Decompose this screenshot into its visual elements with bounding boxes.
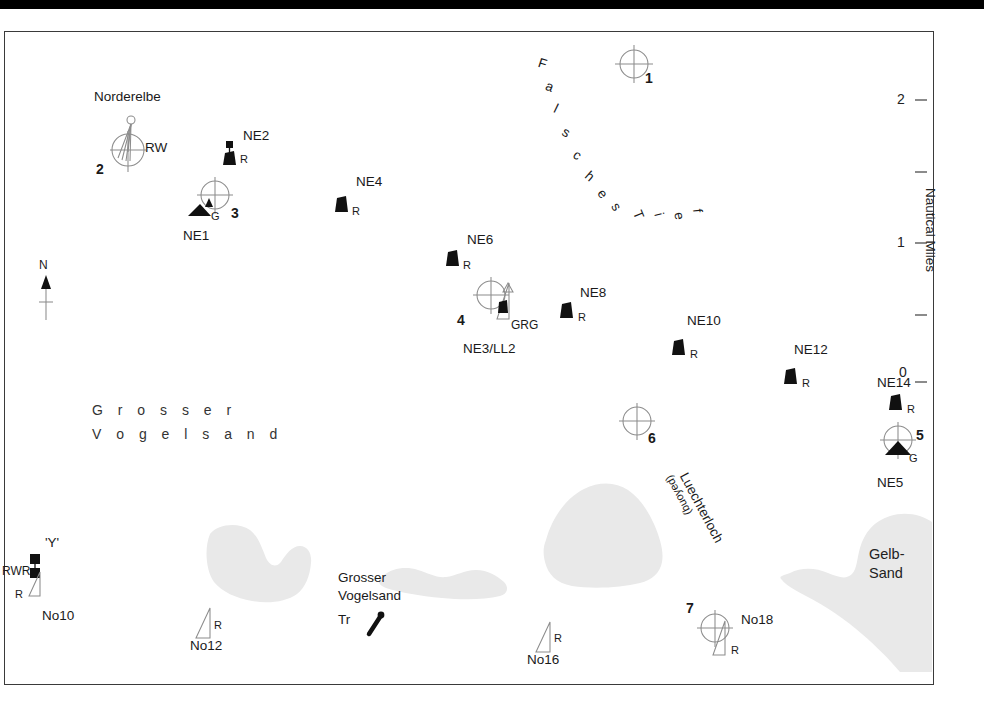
scale-tick-label-0: 0: [899, 364, 907, 381]
light-char-ne1: G: [211, 210, 220, 223]
label-no16: No16: [527, 652, 559, 668]
light-char-ne10: R: [690, 348, 698, 361]
region-name-grosser-vogelsand-line2: V o g e l s a n d: [92, 426, 283, 443]
waypoint-number-3: 3: [231, 205, 239, 222]
light-char-ne3-ll2: GRG: [511, 318, 538, 332]
waypoint-number-6: 6: [648, 430, 656, 447]
region-name-gelb-sand-line1: Gelb-: [869, 546, 904, 563]
label-no18: No18: [741, 612, 773, 628]
label-ne4: NE4: [356, 174, 382, 190]
nautical-chart-page: 1 2 3 4 5 6 7 Norderelbe RW NE1 G NE3/LL…: [0, 0, 984, 702]
label-ne8: NE8: [580, 285, 606, 301]
region-name-gelb-sand-line2: Sand: [869, 565, 903, 582]
chart-neatline-frame: [4, 31, 934, 685]
light-char-norderelbe: RW: [145, 140, 167, 156]
waypoint-number-5: 5: [916, 427, 924, 444]
label-no12: No12: [190, 638, 222, 654]
light-char-ne2: R: [240, 153, 248, 166]
light-char-ne14: R: [907, 403, 915, 416]
label-ne1: NE1: [183, 228, 209, 244]
scale-tick-label-1: 1: [897, 234, 905, 251]
label-ne5: NE5: [877, 475, 903, 491]
landmark-type-label: Tr: [338, 612, 350, 628]
north-arrow-label: N: [39, 258, 48, 272]
waypoint-number-4: 4: [457, 312, 465, 329]
waypoint-number-2: 2: [96, 161, 104, 178]
label-ne3-ll2: NE3/LL2: [463, 341, 516, 357]
region-name-grosser-vogelsand-line1: G r o s s e r: [92, 402, 237, 419]
label-norderelbe: Norderelbe: [94, 89, 161, 105]
light-char-ne8: R: [578, 311, 586, 324]
light-char-ne4: R: [352, 205, 360, 218]
scale-unit-label: Nautical Miles: [923, 188, 938, 272]
light-char-no18: R: [731, 644, 739, 657]
light-char-no10: R: [15, 588, 23, 601]
light-char-ne6: R: [463, 259, 471, 272]
landmark-name-line2: Vogelsand: [338, 588, 401, 604]
light-char-rwr-no10: RWR: [2, 564, 30, 578]
label-ne2: NE2: [243, 128, 269, 144]
waypoint-number-1: 1: [645, 70, 653, 87]
label-ne10: NE10: [687, 313, 721, 329]
topmark-label-no10: 'Y': [45, 535, 59, 551]
label-ne12: NE12: [794, 342, 828, 358]
light-char-ne12: R: [802, 377, 810, 390]
label-no10: No10: [42, 608, 74, 624]
scale-tick-label-2: 2: [897, 91, 905, 108]
light-char-no12: R: [214, 619, 222, 632]
light-char-no16: R: [554, 632, 562, 645]
scan-top-strip: [0, 0, 984, 9]
waypoint-number-7: 7: [686, 600, 694, 617]
label-ne6: NE6: [467, 232, 493, 248]
light-char-ne5: G: [909, 452, 918, 465]
landmark-name-line1: Grosser: [338, 570, 386, 586]
